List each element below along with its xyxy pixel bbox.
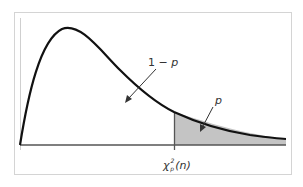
- label-critical-value: χ2p(n): [162, 157, 191, 173]
- label-one-minus-p: 1 − p: [148, 56, 178, 69]
- density-curve: [20, 28, 286, 145]
- shaded-tail-region: [174, 112, 286, 145]
- label-p: p: [214, 94, 222, 107]
- chi-squared-diagram: 1 − p p χ2p(n): [0, 0, 303, 187]
